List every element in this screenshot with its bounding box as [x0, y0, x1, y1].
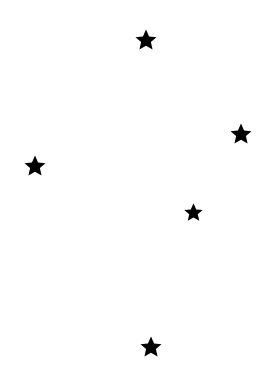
star-icon — [139, 335, 163, 359]
star-icon — [23, 154, 47, 178]
star-icon — [134, 28, 158, 52]
star-field-canvas — [0, 0, 268, 368]
star-icon — [183, 202, 204, 223]
star-icon — [229, 122, 253, 146]
